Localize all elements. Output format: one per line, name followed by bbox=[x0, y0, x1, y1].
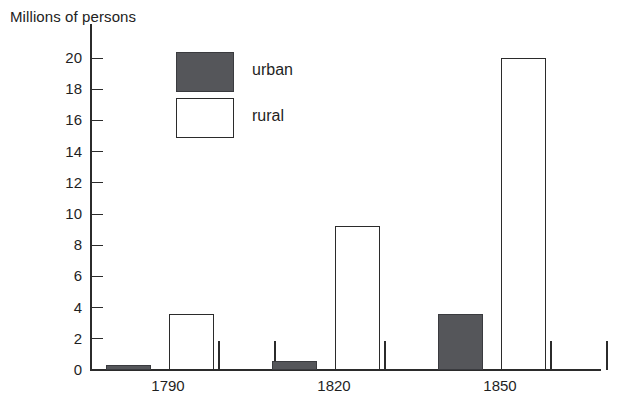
y-tick-label: 10 bbox=[38, 206, 82, 221]
y-tick-label: 20 bbox=[38, 50, 82, 65]
y-tick-mark bbox=[92, 276, 103, 277]
x-tick-label: 1820 bbox=[294, 378, 374, 393]
y-tick-mark bbox=[92, 370, 103, 371]
y-tick-mark bbox=[92, 307, 103, 308]
bar-rural-1850 bbox=[501, 58, 546, 370]
bar-rural-1820 bbox=[335, 226, 380, 370]
bar-urban-1790 bbox=[106, 365, 151, 370]
x-tick-mark bbox=[218, 341, 220, 370]
y-tick-label: 6 bbox=[38, 268, 82, 283]
x-tick-mark bbox=[606, 341, 608, 370]
y-tick-mark bbox=[92, 182, 103, 183]
y-tick-mark bbox=[92, 338, 103, 339]
x-tick-mark bbox=[550, 341, 552, 370]
y-tick-label: 12 bbox=[38, 175, 82, 190]
x-tick-mark bbox=[384, 341, 386, 370]
x-tick-label: 1850 bbox=[460, 378, 540, 393]
legend-label-rural: rural bbox=[252, 108, 284, 124]
y-tick-mark bbox=[92, 58, 103, 59]
y-tick-label: 14 bbox=[38, 144, 82, 159]
y-tick-mark bbox=[92, 120, 103, 121]
y-tick-label: 16 bbox=[38, 112, 82, 127]
bar-urban-1850 bbox=[438, 314, 483, 370]
bar-rural-1790 bbox=[169, 314, 214, 370]
y-tick-mark bbox=[92, 245, 103, 246]
y-tick-mark bbox=[92, 151, 103, 152]
legend-label-urban: urban bbox=[252, 62, 293, 78]
bar-urban-1820 bbox=[272, 361, 317, 370]
y-tick-label: 2 bbox=[38, 331, 82, 346]
legend-swatch-rural-icon bbox=[176, 98, 234, 138]
y-axis-line bbox=[90, 24, 92, 371]
y-tick-label: 18 bbox=[38, 81, 82, 96]
bar-chart-figure: Millions of persons 02468101214161820 17… bbox=[0, 0, 619, 411]
y-tick-label: 8 bbox=[38, 237, 82, 252]
x-tick-label: 1790 bbox=[128, 378, 208, 393]
y-tick-mark bbox=[92, 214, 103, 215]
y-tick-label: 0 bbox=[38, 362, 82, 377]
legend-swatch-urban-icon bbox=[176, 52, 234, 92]
y-tick-label: 4 bbox=[38, 300, 82, 315]
y-tick-mark bbox=[92, 89, 103, 90]
plot-area: 02468101214161820 179018201850 bbox=[0, 0, 619, 411]
